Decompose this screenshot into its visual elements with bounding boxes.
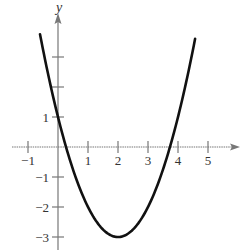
chart: y −112345 −3−2−11 [0,0,242,251]
x-tick-label: 3 [145,153,152,168]
x-tick-label: 2 [115,153,122,168]
x-tick-label: −1 [21,153,35,168]
y-tick-label: −2 [35,200,49,215]
x-tick-label: 5 [205,153,212,168]
x-tick-label: 1 [85,153,92,168]
y-tick-label: 1 [43,110,50,125]
y-axis-label: y [54,0,63,15]
y-tick-label: −3 [35,230,49,245]
x-tick-label: 4 [175,153,182,168]
y-tick-label: −1 [35,170,49,185]
x-ticks: −112345 [21,141,211,168]
